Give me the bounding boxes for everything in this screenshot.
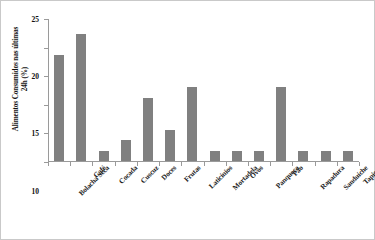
y-tick-label: 10	[32, 186, 40, 195]
x-axis-label: Cocada	[117, 164, 139, 186]
bar-slot	[248, 19, 270, 161]
bar-slot	[137, 19, 159, 161]
bar-series	[48, 19, 359, 161]
bar	[54, 55, 64, 161]
y-tick-label: 25	[32, 15, 40, 24]
y-tick-label: 20	[32, 72, 40, 81]
bar-slot	[315, 19, 337, 161]
bar	[276, 87, 286, 161]
bar-slot	[292, 19, 314, 161]
bar-slot	[92, 19, 114, 161]
x-axis-labels: Bolacha SecaCaféCocadaCuscuzDocesFrutasL…	[48, 164, 359, 234]
bar-slot	[270, 19, 292, 161]
bar	[99, 151, 109, 161]
bar-slot	[226, 19, 248, 161]
x-axis-label: Cuscuz	[139, 164, 160, 185]
bar-slot	[337, 19, 359, 161]
bar	[298, 151, 308, 161]
y-tick-label: 15	[32, 129, 40, 138]
plot-area: 0510152025	[48, 19, 359, 162]
bar-slot	[159, 19, 181, 161]
y-axis-title-line-2: 24h (%)	[21, 27, 30, 131]
bar	[143, 98, 153, 161]
x-tick-mark	[359, 162, 360, 166]
bar-slot	[204, 19, 226, 161]
bar-slot	[48, 19, 70, 161]
bar	[254, 151, 264, 161]
chart-figure: Alimentos Consumidos nas últimas 24h (%)…	[0, 0, 375, 240]
bar-slot	[115, 19, 137, 161]
bar	[232, 151, 242, 161]
bar	[165, 130, 175, 161]
bar	[321, 151, 331, 161]
bar	[343, 151, 353, 161]
x-axis-label: Doces	[160, 164, 178, 182]
x-axis-label: Frutas	[183, 164, 203, 184]
y-axis-title-line-1: Alimentos Consumidos nas últimas	[12, 27, 21, 131]
bar	[187, 87, 197, 161]
bar-slot	[181, 19, 203, 161]
bar	[121, 140, 131, 161]
bar	[76, 34, 86, 161]
bar-slot	[70, 19, 92, 161]
bar	[210, 151, 220, 161]
